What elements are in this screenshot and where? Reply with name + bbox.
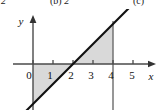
y-axis-label: y — [18, 15, 24, 27]
x-tick-label-2: 2 — [68, 69, 74, 81]
x-tick-label-5: 5 — [129, 69, 135, 81]
answer-choice-c: (c) — [133, 0, 144, 6]
answer-choice-b-label: (b) — [50, 0, 62, 6]
answer-choice-b-value: 2 — [64, 0, 69, 6]
graph-figure: y x 0 1 2 3 4 5 — [0, 9, 161, 110]
x-tick-label-4: 4 — [108, 69, 114, 81]
answer-choice-b: (b) 2 — [50, 0, 69, 6]
y-axis-arrow-icon — [30, 15, 37, 23]
x-tick-label-3: 3 — [88, 69, 94, 81]
graph-svg: y x 0 1 2 3 4 5 — [0, 9, 161, 110]
answer-choice-c-label: (c) — [133, 0, 144, 6]
answer-choice-a-value: 2 — [1, 0, 6, 6]
x-tick-label-1: 1 — [47, 69, 53, 81]
x-axis-arrow-icon — [148, 61, 156, 67]
x-axis-label: x — [148, 70, 154, 82]
answer-choice-row: 2 (b) 2 (c) — [0, 0, 161, 9]
x-tick-label-0: 0 — [26, 69, 32, 81]
answer-choice-a: 2 — [1, 0, 6, 6]
